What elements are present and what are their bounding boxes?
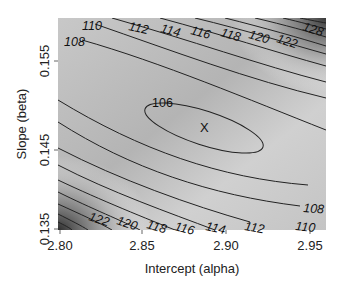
y-tick-0-145: 0.145	[37, 134, 52, 167]
y-axis-title: Slope (beta)	[14, 89, 29, 160]
x-tick-2-95: 2.95	[297, 238, 322, 253]
contour-label-108: 108	[64, 35, 85, 49]
contour-label-114b: 114	[204, 219, 226, 237]
contour-label-110: 110	[82, 19, 102, 33]
x-tick-labels: 2.80 2.85 2.90 2.95	[47, 238, 322, 253]
contour-label-112b: 112	[243, 219, 265, 236]
contour-plot: 110 108 112 114 116 118 120 122 128 122 …	[0, 0, 344, 288]
y-tick-0-135: 0.135	[37, 213, 52, 246]
contour-label-106: 106	[152, 96, 173, 110]
contour-label-108b: 108	[303, 201, 325, 216]
plot-area	[58, 18, 326, 230]
x-tick-2-85: 2.85	[129, 238, 154, 253]
y-tick-labels: 0.135 0.145 0.155	[37, 45, 52, 246]
x-axis-title: Intercept (alpha)	[145, 261, 240, 276]
y-tick-0-155: 0.155	[37, 45, 52, 78]
minimum-marker: X	[200, 120, 209, 135]
contour-label-110b: 110	[295, 219, 316, 235]
x-tick-2-90: 2.90	[213, 238, 238, 253]
